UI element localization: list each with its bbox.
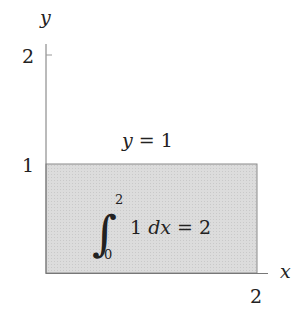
x-axis-label: x [280,260,291,282]
integral-upper-limit: 2 [115,192,123,207]
y-axis-label: y [39,6,51,28]
y-tick-label-1: 1 [22,154,34,176]
integral-expression: 1 dx = 2 [130,216,211,238]
integral-plot: y 2 1 x 2 y = 1 ∫ 2 0 1 dx = 2 [0,0,301,321]
integral-lower-limit: 0 [104,247,112,262]
x-tick-label-2: 2 [250,285,262,307]
y-tick-label-2: 2 [22,45,34,67]
curve-label: y = 1 [121,129,173,151]
